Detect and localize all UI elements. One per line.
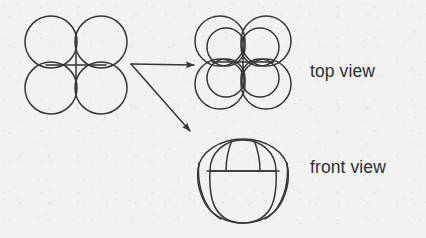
front-view-dome-cap	[210, 140, 276, 171]
arrow-to-front-view	[131, 64, 190, 131]
diagram-canvas: top view front view	[0, 0, 426, 238]
source-petal-top-left	[25, 16, 77, 68]
source-quatrefoil-shape	[25, 16, 127, 114]
arrow-to-top-view	[131, 64, 194, 65]
source-petal-bottom-left	[25, 62, 77, 114]
front-view-label: front view	[310, 159, 386, 177]
source-petal-bottom-right	[75, 62, 127, 114]
top-view-label: top view	[310, 63, 375, 81]
source-petal-top-right	[75, 16, 127, 68]
line-drawing-figure	[0, 0, 426, 238]
projection-arrows	[131, 64, 194, 131]
top-view-shape	[195, 16, 291, 109]
front-view-dome-meridian-right	[254, 140, 260, 171]
front-view-lower-body	[210, 171, 276, 223]
front-view-dome-meridian-left	[226, 140, 232, 171]
front-view-shape	[198, 139, 289, 223]
